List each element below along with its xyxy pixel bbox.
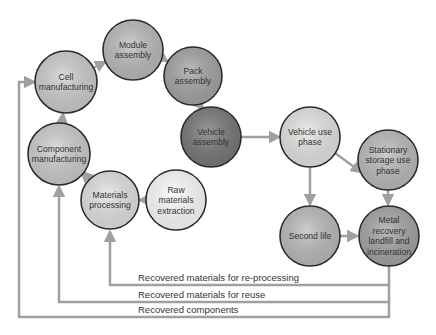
node-label: manufacturing <box>39 82 94 92</box>
node-label: Component <box>37 144 82 154</box>
node-raw-materials: Rawmaterialsextraction <box>146 170 206 230</box>
node-label: Cell <box>59 72 74 82</box>
node-label: Second life <box>289 231 332 241</box>
node-label: storage use <box>366 155 411 165</box>
node-label: assembly <box>175 76 212 86</box>
node-label: phase <box>376 166 400 176</box>
node-pack: Packassembly <box>164 47 222 105</box>
lifecycle-diagram: CellmanufacturingModuleassemblyPackassem… <box>0 0 436 335</box>
node-label: recovery <box>373 226 407 236</box>
node-label: Stationary <box>369 145 408 155</box>
node-label: Metal <box>378 215 399 225</box>
node-label: extraction <box>157 206 194 216</box>
label-reuse: Recovered materials for reuse <box>138 289 265 300</box>
node-module: Moduleassembly <box>103 20 163 80</box>
node-label: assembly <box>193 137 230 147</box>
node-label: Raw <box>167 185 185 195</box>
node-stationary: Stationarystorage usephase <box>358 130 418 190</box>
node-label: manufacturing <box>32 154 87 164</box>
node-second-life: Second life <box>280 206 340 266</box>
node-label: Materials <box>93 190 128 200</box>
node-component: Componentmanufacturing <box>28 123 90 185</box>
label-reprocessing: Recovered materials for re-processing <box>138 272 299 283</box>
node-cell: Cellmanufacturing <box>35 51 97 113</box>
node-label: Pack <box>183 66 203 76</box>
arrow-cell-to-module <box>93 62 105 68</box>
node-label: landfill and <box>368 236 409 246</box>
node-label: Module <box>119 40 147 50</box>
node-group: CellmanufacturingModuleassemblyPackassem… <box>28 20 419 266</box>
node-label: processing <box>89 200 131 210</box>
node-vehicle-assembly: Vehicleassembly <box>181 107 241 167</box>
node-label: Vehicle <box>197 127 225 137</box>
arrow-use-to-stationary <box>335 153 361 172</box>
node-metal-recovery: Metalrecoverylandfill andincineration <box>359 206 419 266</box>
node-vehicle-use: Vehicle usephase <box>280 107 340 167</box>
node-label: materials <box>159 195 194 205</box>
node-label: Vehicle use <box>288 127 332 137</box>
node-label: assembly <box>115 50 152 60</box>
node-materials-processing: Materialsprocessing <box>81 171 139 229</box>
label-components: Recovered components <box>138 304 239 315</box>
node-label: phase <box>298 137 322 147</box>
node-label: incineration <box>367 247 411 257</box>
arrow-component-to-cell <box>62 114 63 123</box>
